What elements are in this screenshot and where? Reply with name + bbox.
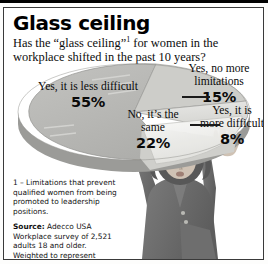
label-more-difficult-percent: 8% <box>200 131 264 148</box>
label-the-same-text: No, it’s the same <box>127 108 178 134</box>
graphic-frame: Glass ceiling Has the “glass ceiling”1 f… <box>3 7 264 260</box>
infographic-glass-ceiling: Glass ceiling Has the “glass ceiling”1 f… <box>0 0 268 264</box>
label-no-more-limitations-text: Yes, no more limitations <box>189 62 250 88</box>
leader-line-no-more-limitations <box>182 96 210 98</box>
label-the-same: No, it’s the same 22% <box>116 108 190 152</box>
label-less-difficult-text: Yes, it is less difficult <box>38 80 138 93</box>
source-label: Source: <box>13 222 45 231</box>
label-less-difficult: Yes, it is less difficult 55% <box>34 80 142 111</box>
top-rule <box>0 0 268 3</box>
label-no-more-limitations: Yes, no more limitations 15% <box>172 62 264 106</box>
label-more-difficult-text: Yes, it is more difficult <box>200 104 264 130</box>
source-note: Source: Adecco USA Workplace survey of 2… <box>13 222 117 260</box>
footnote-text: 1 – Limitations that prevent qualified w… <box>13 178 117 216</box>
label-more-difficult: Yes, it is more difficult 8% <box>200 104 264 148</box>
leader-line-more-difficult <box>190 124 220 126</box>
label-the-same-percent: 22% <box>116 135 190 152</box>
